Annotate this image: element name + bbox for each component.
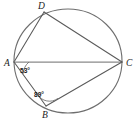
chord-ad — [14, 12, 44, 62]
angle-measure-a: 53° — [20, 67, 30, 74]
chord-dc — [44, 12, 122, 62]
circle-outline — [14, 9, 122, 113]
vertex-label-c: C — [126, 58, 133, 68]
geometry-canvas: A B C D 53° 89° — [0, 0, 137, 120]
chord-bc — [46, 62, 122, 106]
circle-geometry-diagram: A B C D 53° 89° — [0, 0, 137, 120]
vertex-label-a: A — [3, 58, 10, 68]
vertex-label-b: B — [42, 110, 48, 120]
vertex-label-d: D — [37, 1, 45, 11]
angle-measure-b: 89° — [34, 91, 44, 98]
